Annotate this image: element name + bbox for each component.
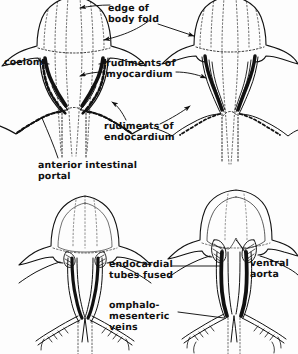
label-omphalomesenteric-veins: omphalo-mesentericveins <box>109 300 169 334</box>
panel-upper-right-fold-boundary <box>196 47 264 52</box>
panel-upper-right-wall-right-a <box>239 57 298 136</box>
panel-upper-right-endocardium <box>180 114 220 135</box>
panel-lower-left-flank-left <box>19 262 60 283</box>
panel-upper-left-internal-guides <box>44 0 104 156</box>
label-endocardial-tubes-fused: endocardialtubes fused <box>109 259 173 281</box>
panel-lower-right-internal-guides <box>225 194 247 240</box>
panel-upper-left-fold-boundary <box>38 48 110 53</box>
label-rudiments-of-endocardium: rudiments ofendocardium <box>104 121 175 143</box>
panel-lower-right-gut-tube <box>228 318 240 354</box>
panel-lower-left-gut-tube <box>78 322 92 354</box>
leader-edge-of-body-fold-top <box>80 5 110 8</box>
panel-lower-left-internal-guides <box>73 196 97 248</box>
panel-lower-right-veins <box>182 314 286 343</box>
panel-lower-right-tube-wall-b <box>228 252 232 314</box>
panel-lower-right-body-fold-outline <box>168 190 298 259</box>
leader-endocardium-left <box>112 102 126 120</box>
leader-myocardium-right <box>176 72 206 78</box>
embryology-figure: edge ofbody fold rudiments ofmyocardium … <box>0 0 298 354</box>
panel-lower-right-arch-hatching <box>213 244 255 261</box>
label-rudiments-of-myocardium: rudiments ofmyocardium <box>106 58 176 80</box>
panel-upper-right-endocardium-right <box>240 114 280 135</box>
panel-lower-right-flank-left <box>169 256 210 277</box>
panel-lower-right-pericardial-outline <box>207 197 265 249</box>
leader-anterior-portal <box>42 118 58 158</box>
panel-lower-right-arch-root-left <box>212 240 226 263</box>
panel-upper-left-portal-arch <box>64 108 84 113</box>
label-coelom: coelom <box>4 57 43 68</box>
leader-omphalomesenteric <box>178 312 224 318</box>
panel-upper-right-gut-tube <box>222 114 238 162</box>
label-ventral-aorta: ventralaorta <box>250 258 289 280</box>
label-anterior-intestinal-portal: anterior intestinalportal <box>38 160 137 182</box>
label-edge-of-body-fold: edge ofbody fold <box>108 3 159 25</box>
panel-upper-left-portal <box>62 110 86 158</box>
panel-upper-right-internal-guides <box>200 0 260 164</box>
panel-lower-right-tube-wall-d <box>236 252 240 314</box>
panel-lower-right-vein-plexus <box>187 326 281 353</box>
panel-upper-right <box>154 0 298 164</box>
leader-edge-of-body-fold-right <box>158 24 194 36</box>
